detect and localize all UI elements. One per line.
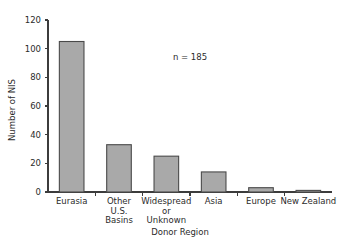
bar-chart-figure: 020406080100120 EurasiaOtherU.S.BasinsWi…	[0, 0, 342, 247]
x-tick-label: Asia	[205, 196, 223, 206]
y-axis-title: Number of NIS	[7, 79, 17, 141]
bar	[201, 172, 226, 192]
y-tick-label: 20	[30, 158, 41, 168]
x-tick-label: New Zealand	[280, 196, 336, 206]
x-axis-title: Donor Region	[151, 227, 209, 237]
y-tick-label: 100	[25, 44, 41, 54]
bar	[249, 188, 274, 192]
x-tick-label: Eurasia	[56, 196, 87, 206]
chart-canvas: 020406080100120 EurasiaOtherU.S.BasinsWi…	[0, 0, 342, 247]
bar	[154, 156, 179, 192]
y-tick-label: 120	[25, 15, 41, 25]
y-tick-label: 80	[30, 72, 41, 82]
bar	[296, 190, 321, 192]
y-tick-label: 0	[36, 187, 41, 197]
x-tick-label: Europe	[246, 196, 276, 206]
y-tick-label: 40	[30, 130, 41, 140]
bar	[107, 145, 132, 192]
bar	[59, 42, 84, 193]
y-tick-label: 60	[30, 101, 41, 111]
chart-annotations: n = 185	[173, 52, 207, 62]
chart-background	[0, 0, 342, 247]
sample-size-annotation: n = 185	[173, 52, 207, 62]
